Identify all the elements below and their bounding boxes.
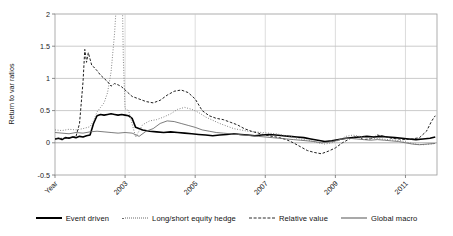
x-tick-label: 2009 bbox=[322, 179, 340, 197]
legend-label: Event driven bbox=[66, 214, 109, 223]
y-tick-label: 0.5 bbox=[40, 106, 50, 115]
legend-label: Long/short equity hedge bbox=[152, 214, 236, 223]
y-tick-label: -0.5 bbox=[38, 171, 50, 180]
legend-line-swatch bbox=[249, 214, 275, 222]
x-tick-label: 2011 bbox=[393, 179, 410, 196]
legend-item[interactable]: Long/short equity hedge bbox=[122, 214, 236, 223]
legend-item[interactable]: Event driven bbox=[36, 214, 109, 223]
legend-label: Relative value bbox=[279, 214, 328, 223]
y-tick-label: 2 bbox=[46, 10, 50, 19]
y-axis-ticks: -0.500.511.52 bbox=[38, 10, 55, 180]
x-tick-label: 2005 bbox=[182, 179, 200, 197]
line-chart: -0.500.511.52 Year20032005200720092011 R… bbox=[0, 0, 453, 200]
y-tick-label: 1 bbox=[46, 74, 50, 83]
plot-background bbox=[55, 14, 437, 175]
y-tick-label: 0 bbox=[46, 138, 50, 147]
y-tick-label: 1.5 bbox=[40, 42, 50, 51]
legend-line-swatch bbox=[341, 214, 367, 222]
chart-legend: Event drivenLong/short equity hedgeRelat… bbox=[0, 200, 453, 236]
chart-figure: -0.500.511.52 Year20032005200720092011 R… bbox=[0, 0, 453, 236]
legend-item[interactable]: Global macro bbox=[341, 214, 417, 223]
legend-line-swatch bbox=[36, 214, 62, 222]
legend-item[interactable]: Relative value bbox=[249, 214, 328, 223]
y-axis-label: Return to var ratios bbox=[7, 63, 16, 125]
x-tick-label: 2003 bbox=[112, 179, 130, 197]
legend-label: Global macro bbox=[371, 214, 417, 223]
x-tick-label: Year bbox=[43, 179, 60, 196]
x-tick-label: 2007 bbox=[252, 179, 270, 197]
legend-line-swatch bbox=[122, 214, 148, 222]
x-axis-ticks: Year20032005200720092011 bbox=[43, 175, 410, 197]
